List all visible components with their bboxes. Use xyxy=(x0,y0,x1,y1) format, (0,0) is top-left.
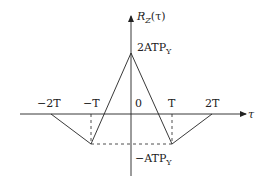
origin-label: 0 xyxy=(135,97,142,110)
tick-label-2T: 2T xyxy=(205,97,220,110)
tick-label-T: T xyxy=(168,97,176,110)
tick-label-minus-T: −T xyxy=(83,97,100,110)
autocorrelation-diagram: RZ(τ) 2ATPY −ATPY −2T −T 0 T 2T τ xyxy=(0,0,266,186)
x-axis-label: τ xyxy=(248,108,255,121)
tick-label-minus-2T: −2T xyxy=(37,97,61,110)
peak-label: 2ATPY xyxy=(137,41,172,56)
y-axis-label: RZ(τ) xyxy=(136,10,166,25)
autocorrelation-curve xyxy=(51,53,212,144)
min-label: −ATPY xyxy=(135,152,172,167)
